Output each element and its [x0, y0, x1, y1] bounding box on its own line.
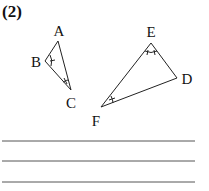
triangle-abc — [45, 41, 71, 90]
angle-e-arc — [145, 51, 157, 53]
vertex-label-d: D — [182, 72, 193, 87]
angle-b-tick — [50, 60, 55, 61]
vertex-label-c: C — [66, 96, 76, 111]
angle-e-tick2 — [154, 50, 155, 55]
vertex-label-f: F — [92, 114, 100, 129]
problem-figure: (2) A B C E D F — [0, 0, 209, 191]
triangle-def — [101, 43, 177, 107]
vertex-label-a: A — [54, 24, 65, 39]
angle-e-tick1 — [147, 50, 148, 55]
vertex-label-b: B — [31, 55, 41, 70]
vertex-label-e: E — [146, 25, 155, 40]
triangles-figure — [0, 0, 209, 191]
